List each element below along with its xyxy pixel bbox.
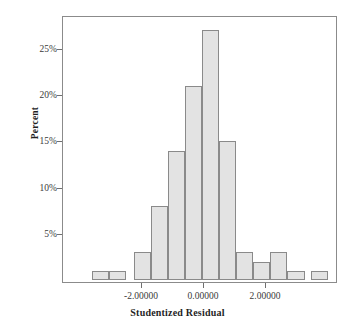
y-tick: 5% [0, 229, 57, 239]
y-tick-mark [57, 141, 62, 142]
histogram-bar [236, 252, 253, 280]
histogram-bar [151, 206, 168, 280]
y-tick-mark [57, 49, 62, 50]
histogram-bar [92, 271, 109, 280]
x-tick-mark [265, 283, 266, 288]
histogram-bar [270, 252, 287, 280]
bars-layer [63, 17, 336, 283]
histogram-chart: 5%10%15%20%25% Percent -2.000000.000002.… [0, 0, 355, 334]
y-tick: 20% [0, 90, 57, 100]
y-axis-title: Percent [30, 83, 40, 163]
histogram-bar [134, 252, 151, 280]
histogram-bar [202, 30, 219, 280]
y-tick-label: 5% [23, 229, 57, 239]
y-tick-label: 15% [23, 136, 57, 146]
histogram-bar [168, 151, 185, 281]
histogram-bar [185, 86, 202, 280]
histogram-bar [109, 271, 126, 280]
y-tick: 10% [0, 183, 57, 193]
y-tick-label: 25% [23, 44, 57, 54]
x-tick-label: 2.00000 [225, 291, 305, 302]
y-tick: 15% [0, 136, 57, 146]
x-tick-mark [203, 283, 204, 288]
y-tick-mark [57, 188, 62, 189]
y-tick: 25% [0, 44, 57, 54]
x-tick-mark [141, 283, 142, 288]
histogram-bar [287, 271, 304, 280]
histogram-bar [219, 141, 236, 280]
y-tick-label: 10% [23, 183, 57, 193]
y-tick-mark [57, 95, 62, 96]
histogram-bar [311, 271, 328, 280]
histogram-bar [253, 262, 270, 281]
x-axis-title: Studentized Residual [0, 307, 355, 318]
y-tick-mark [57, 234, 62, 235]
y-tick-label: 20% [23, 90, 57, 100]
